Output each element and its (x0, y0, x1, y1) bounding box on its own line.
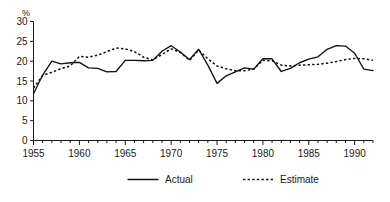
chart-background (0, 0, 390, 202)
x-tick-label: 1955 (22, 148, 45, 159)
x-tick-label: 1960 (68, 148, 91, 159)
legend-label-actual: Actual (165, 174, 193, 185)
x-tick-label: 1975 (206, 148, 229, 159)
y-tick-label: 0 (22, 135, 28, 146)
x-tick-label: 1990 (344, 148, 367, 159)
y-tick-label: 20 (16, 56, 28, 67)
y-tick-label: 15 (16, 76, 28, 87)
chart-container: 051015202530 195519601965197019751980198… (0, 0, 390, 202)
legend-label-estimate: Estimate (280, 174, 319, 185)
y-tick-label: 25 (16, 36, 28, 47)
y-axis-unit-label: % (22, 8, 30, 18)
x-tick-label: 1980 (252, 148, 275, 159)
x-tick-label: 1965 (114, 148, 137, 159)
x-tick-label: 1970 (160, 148, 183, 159)
y-tick-label: 5 (22, 115, 28, 126)
line-chart: 051015202530 195519601965197019751980198… (0, 0, 390, 202)
y-tick-label: 10 (16, 95, 28, 106)
x-tick-label: 1985 (298, 148, 321, 159)
